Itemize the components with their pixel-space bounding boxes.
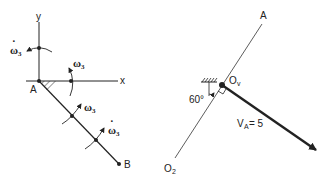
point-a-label: A <box>30 84 37 95</box>
svg-text:ω: ω <box>73 57 81 69</box>
svg-text:2: 2 <box>172 168 176 175</box>
y-axis-label: y <box>36 11 41 22</box>
left-diagram: y x A B ω 3 · ω 3 ω 3 <box>10 11 131 170</box>
svg-text:O: O <box>164 163 172 174</box>
pivot-label: O v <box>229 75 241 87</box>
kinematics-figure: y x A B ω 3 · ω 3 ω 3 <box>0 0 326 182</box>
point-a <box>37 79 41 83</box>
omega-link-label: ω 3 <box>84 101 96 115</box>
velocity-label: V A = 5 <box>237 118 264 130</box>
omega-dot-top-label: ω 3 · <box>10 35 22 58</box>
point-b-label: B <box>124 159 131 170</box>
top-a-label: A <box>260 10 267 21</box>
right-diagram: A 60° O v V A = 5 O 2 <box>164 10 316 175</box>
link-ab <box>39 81 119 164</box>
angle-arc-icon <box>209 93 214 95</box>
svg-text:·: · <box>110 115 114 127</box>
x-axis-label: x <box>120 75 125 86</box>
omega-x-axis-label: ω 3 <box>73 57 85 71</box>
bottom-o2-label: O 2 <box>164 163 176 175</box>
angle-label: 60° <box>189 94 204 105</box>
svg-text:3: 3 <box>81 63 85 71</box>
svg-text:V: V <box>237 118 244 129</box>
svg-text:3: 3 <box>116 130 120 138</box>
svg-text:O: O <box>229 75 237 86</box>
omega-dot-link-label: ω 3 · <box>108 115 120 138</box>
svg-text:3: 3 <box>18 50 22 58</box>
svg-text:= 5: = 5 <box>249 118 264 129</box>
svg-text:ω: ω <box>84 101 92 113</box>
svg-text:v: v <box>237 80 241 87</box>
point-b <box>117 162 121 166</box>
svg-text:3: 3 <box>92 107 96 115</box>
svg-text:·: · <box>12 35 16 47</box>
ground-hatch-right <box>202 78 217 82</box>
